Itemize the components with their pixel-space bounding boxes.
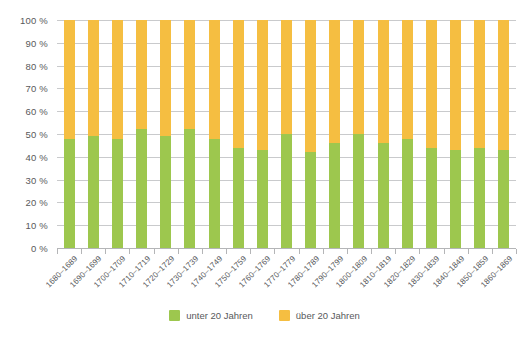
bar-segment-under-20[interactable]	[233, 148, 244, 248]
bar-segment-over-20[interactable]	[305, 20, 316, 152]
bar-segment-under-20[interactable]	[378, 143, 389, 248]
bar-segment-over-20[interactable]	[450, 20, 461, 150]
bar-segment-under-20[interactable]	[402, 139, 413, 248]
bar-segment-under-20[interactable]	[329, 143, 340, 248]
bar-segment-under-20[interactable]	[257, 150, 268, 248]
bar-group[interactable]	[178, 20, 202, 248]
bar-segment-over-20[interactable]	[426, 20, 437, 148]
bar-segment-under-20[interactable]	[426, 148, 437, 248]
bar-segment-under-20[interactable]	[281, 134, 292, 248]
chart-legend: unter 20 Jahrenüber 20 Jahren	[0, 310, 529, 321]
bar-segment-under-20[interactable]	[450, 150, 461, 248]
bar-group[interactable]	[323, 20, 347, 248]
bar-segment-over-20[interactable]	[209, 20, 220, 139]
y-axis-tick-label: 50 %	[26, 129, 48, 140]
y-axis-tick-label: 80 %	[26, 60, 48, 71]
y-axis-tick-label: 10 %	[26, 220, 48, 231]
bar-segment-over-20[interactable]	[257, 20, 268, 150]
bar-segment-over-20[interactable]	[88, 20, 99, 136]
bar-segment-over-20[interactable]	[353, 20, 364, 134]
bar-segment-under-20[interactable]	[305, 152, 316, 248]
bar-segment-under-20[interactable]	[136, 129, 147, 248]
bar-group[interactable]	[129, 20, 153, 248]
bar-group[interactable]	[250, 20, 274, 248]
bar-segment-over-20[interactable]	[474, 20, 485, 148]
bar-segment-under-20[interactable]	[64, 139, 75, 248]
bar-segment-under-20[interactable]	[88, 136, 99, 248]
plot-area	[57, 20, 516, 248]
bar-segment-under-20[interactable]	[474, 148, 485, 248]
bar-group[interactable]	[395, 20, 419, 248]
bar-group[interactable]	[492, 20, 516, 248]
bar-segment-over-20[interactable]	[136, 20, 147, 129]
bar-group[interactable]	[105, 20, 129, 248]
legend-label: unter 20 Jahren	[186, 310, 253, 321]
legend-item[interactable]: unter 20 Jahren	[169, 310, 253, 321]
x-axis-labels: 1680–16891690–16991700–17091710–17191720…	[57, 254, 516, 300]
bar-segment-under-20[interactable]	[160, 136, 171, 248]
bar-segment-over-20[interactable]	[184, 20, 195, 129]
bar-group[interactable]	[299, 20, 323, 248]
bar-segment-over-20[interactable]	[233, 20, 244, 148]
y-axis: 0 %10 %20 %30 %40 %50 %60 %70 %80 %90 %1…	[0, 20, 52, 248]
bar-segment-under-20[interactable]	[353, 134, 364, 248]
bar-group[interactable]	[274, 20, 298, 248]
y-axis-tick-label: 60 %	[26, 106, 48, 117]
legend-swatch	[169, 310, 180, 321]
bar-group[interactable]	[226, 20, 250, 248]
bar-segment-under-20[interactable]	[498, 150, 509, 248]
legend-item[interactable]: über 20 Jahren	[279, 310, 360, 321]
y-axis-tick-label: 0 %	[31, 243, 48, 254]
bar-segment-over-20[interactable]	[160, 20, 171, 136]
bar-segment-under-20[interactable]	[112, 139, 123, 248]
bar-group[interactable]	[81, 20, 105, 248]
bar-segment-under-20[interactable]	[209, 139, 220, 248]
bar-group[interactable]	[419, 20, 443, 248]
bars-container	[57, 20, 516, 248]
y-axis-tick-label: 100 %	[20, 15, 48, 26]
bar-group[interactable]	[347, 20, 371, 248]
legend-swatch	[279, 310, 290, 321]
bar-segment-under-20[interactable]	[184, 129, 195, 248]
stacked-bar-chart: 0 %10 %20 %30 %40 %50 %60 %70 %80 %90 %1…	[0, 0, 529, 338]
bar-group[interactable]	[154, 20, 178, 248]
y-axis-tick-label: 70 %	[26, 83, 48, 94]
bar-group[interactable]	[202, 20, 226, 248]
bar-group[interactable]	[371, 20, 395, 248]
y-axis-tick-label: 30 %	[26, 174, 48, 185]
x-axis-tick	[516, 249, 517, 254]
bar-segment-over-20[interactable]	[281, 20, 292, 134]
legend-label: über 20 Jahren	[296, 310, 360, 321]
y-axis-tick-label: 20 %	[26, 197, 48, 208]
bar-segment-over-20[interactable]	[402, 20, 413, 139]
y-axis-tick-label: 90 %	[26, 37, 48, 48]
bar-segment-over-20[interactable]	[498, 20, 509, 150]
bar-group[interactable]	[57, 20, 81, 248]
bar-segment-over-20[interactable]	[112, 20, 123, 139]
bar-group[interactable]	[468, 20, 492, 248]
bar-segment-over-20[interactable]	[329, 20, 340, 143]
bar-segment-over-20[interactable]	[378, 20, 389, 143]
y-axis-tick-label: 40 %	[26, 151, 48, 162]
bar-segment-over-20[interactable]	[64, 20, 75, 139]
bar-group[interactable]	[444, 20, 468, 248]
